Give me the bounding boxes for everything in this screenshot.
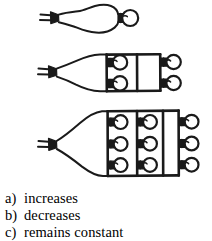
answer-option-a[interactable]: a) increases — [0, 190, 212, 207]
cord-top-circuit-1 — [59, 5, 119, 15]
bulb-3-r1-c3 — [179, 115, 199, 129]
answer-options-list: a) increases b) decreases c) remains con… — [0, 190, 212, 241]
plug-icon-circuit-3 — [38, 138, 57, 150]
bulb-3-r3-c2 — [137, 158, 157, 172]
answer-text-a: increases — [24, 190, 78, 207]
rail-top-circuit-3 — [108, 111, 179, 112]
bulb-globe-1-1 — [122, 10, 138, 26]
circuit-figure — [0, 0, 212, 192]
answer-marker-c: c) — [5, 224, 24, 241]
bulb-2-r1-c2 — [160, 55, 180, 69]
bulb-3-r2-c1 — [108, 137, 128, 151]
circuit-3 — [38, 111, 199, 176]
answer-option-c[interactable]: c) remains constant — [0, 224, 212, 241]
cord-top-circuit-3 — [57, 111, 108, 141]
answer-text-c: remains constant — [24, 224, 123, 241]
cord-bottom-circuit-3 — [57, 149, 108, 176]
plug-icon-circuit-1 — [40, 12, 59, 24]
bulb-3-r1-c1 — [108, 115, 128, 129]
cord-bottom-circuit-2 — [57, 77, 107, 92]
plug-icon-circuit-2 — [38, 66, 57, 78]
bulb-3-r3-c1 — [108, 158, 128, 172]
answer-marker-b: b) — [5, 207, 24, 224]
bulb-3-r2-c2 — [137, 137, 157, 151]
answer-marker-a: a) — [5, 190, 24, 207]
bulb-3-r1-c2 — [137, 115, 157, 129]
bulb-2-r2-c2 — [160, 76, 180, 90]
bulb-2-r1-c1 — [107, 55, 127, 69]
answer-text-b: decreases — [24, 207, 80, 224]
rail-bottom-circuit-3 — [108, 175, 179, 176]
bulb-3-r3-c3 — [179, 158, 199, 172]
bulb-3-r2-c3 — [179, 137, 199, 151]
circuit-1 — [40, 5, 138, 33]
bulb-2-r2-c1 — [107, 76, 127, 90]
answer-option-b[interactable]: b) decreases — [0, 207, 212, 224]
cord-top-circuit-2 — [57, 55, 107, 69]
circuit-diagram-svg — [0, 0, 212, 192]
cord-bottom-circuit-1 — [59, 22, 119, 33]
circuit-2 — [38, 54, 181, 91]
